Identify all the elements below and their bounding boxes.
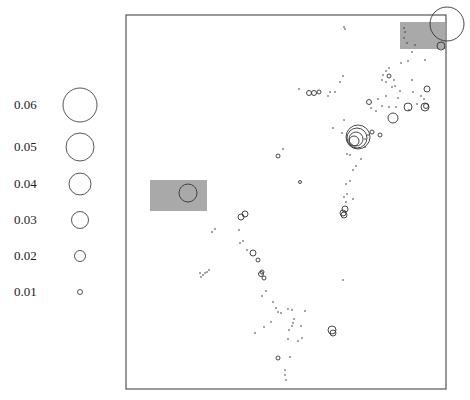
data-circle	[349, 132, 363, 146]
data-dot	[395, 106, 397, 108]
data-dots	[199, 26, 426, 381]
data-dot	[200, 276, 202, 278]
data-dot	[282, 148, 284, 150]
data-circle	[276, 356, 280, 360]
data-dot	[385, 70, 387, 72]
data-dot	[424, 59, 426, 61]
data-dot	[242, 240, 244, 242]
data-dot	[344, 28, 346, 30]
data-dot	[342, 279, 344, 281]
data-dot	[399, 90, 401, 92]
data-dot	[349, 154, 351, 156]
data-dot	[206, 271, 208, 273]
data-dot	[411, 51, 413, 53]
data-dot	[277, 311, 279, 313]
data-circle	[367, 100, 372, 105]
data-dot	[420, 95, 422, 97]
data-dot	[423, 98, 425, 100]
data-dot	[204, 272, 206, 274]
data-dot	[343, 26, 345, 28]
data-circles	[179, 7, 464, 360]
data-circle	[404, 103, 412, 111]
data-dot	[377, 98, 379, 100]
data-dot	[301, 337, 303, 339]
data-dot	[275, 307, 277, 309]
highlight-regions	[150, 22, 445, 211]
data-circle	[349, 136, 359, 146]
data-dot	[202, 274, 204, 276]
data-dot	[327, 95, 329, 97]
legend-circle	[69, 173, 91, 195]
data-dot	[292, 322, 294, 324]
data-dot	[403, 37, 405, 39]
data-dot	[388, 67, 390, 69]
data-dot	[414, 44, 416, 46]
data-dot	[208, 269, 210, 271]
data-dot	[367, 134, 369, 136]
data-dot	[355, 165, 357, 167]
data-dot	[298, 88, 300, 90]
highlight-box	[400, 22, 445, 49]
data-dot	[411, 79, 413, 81]
data-dot	[285, 379, 287, 381]
data-circle	[276, 154, 280, 158]
data-dot	[388, 106, 390, 108]
data-dot	[284, 374, 286, 376]
data-dot	[381, 105, 383, 107]
data-circle	[424, 86, 430, 92]
data-dot	[343, 196, 345, 198]
data-dot	[270, 321, 272, 323]
data-circle	[307, 91, 312, 96]
data-dot	[199, 272, 201, 274]
data-dot	[334, 91, 336, 93]
data-circle	[387, 74, 391, 78]
data-circle	[317, 90, 321, 94]
data-dot	[291, 309, 293, 311]
data-dot	[394, 85, 396, 87]
data-circle	[299, 181, 302, 184]
data-dot	[360, 158, 362, 160]
bubble-map-plot	[0, 0, 470, 400]
data-dot	[297, 340, 299, 342]
data-dot	[214, 228, 216, 230]
data-dot	[341, 132, 343, 134]
data-dot	[407, 60, 409, 62]
data-dot	[339, 81, 341, 83]
data-dot	[265, 290, 267, 292]
data-dot	[284, 369, 286, 371]
data-dot	[332, 127, 334, 129]
data-dot	[239, 242, 241, 244]
data-dot	[381, 79, 383, 81]
data-dot	[287, 338, 289, 340]
data-dot	[288, 329, 290, 331]
data-dot	[280, 312, 282, 314]
data-dot	[370, 107, 372, 109]
data-dot	[263, 326, 265, 328]
legend-circle	[72, 212, 89, 229]
data-dot	[304, 310, 306, 312]
data-dot	[385, 95, 387, 97]
data-circle	[262, 276, 266, 280]
data-dot	[272, 301, 274, 303]
data-dot	[352, 169, 354, 171]
data-dot	[406, 42, 408, 44]
data-dot	[345, 183, 347, 185]
data-dot	[254, 332, 256, 334]
data-dot	[211, 231, 213, 233]
data-dot	[349, 180, 351, 182]
legend-circles	[63, 88, 97, 295]
data-dot	[238, 229, 240, 231]
data-circle	[370, 130, 374, 134]
data-dot	[261, 295, 263, 297]
data-circle	[242, 211, 248, 217]
data-dot	[346, 193, 348, 195]
data-dot	[393, 79, 395, 81]
data-dot	[397, 97, 399, 99]
legend-circle	[63, 88, 97, 122]
data-dot	[342, 75, 344, 77]
data-circle	[238, 214, 244, 220]
data-dot	[293, 318, 295, 320]
data-dot	[289, 356, 291, 358]
data-circle	[388, 113, 398, 123]
data-circle	[424, 104, 429, 109]
